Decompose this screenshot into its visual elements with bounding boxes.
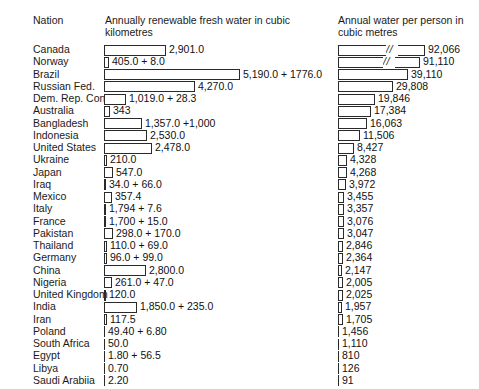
- renewable-water-value: 1,850.0 + 235.0: [140, 300, 213, 312]
- nation-label: Egypt: [33, 349, 60, 361]
- renewable-water-value: 261.0 + 47.0: [115, 276, 174, 288]
- water-per-person-bar: [338, 143, 354, 154]
- renewable-water-bar: [104, 216, 106, 227]
- nation-label: Poland: [33, 325, 66, 337]
- renewable-water-bar: [104, 155, 107, 166]
- nation-label: Bangladesh: [33, 117, 88, 129]
- water-per-person-value: 1,705: [346, 313, 372, 325]
- water-resources-chart: Nation Annually renewable fresh water in…: [0, 0, 479, 389]
- renewable-water-bar: [104, 277, 112, 288]
- water-per-person-bar: [338, 326, 339, 337]
- renewable-water-bar: [104, 45, 166, 56]
- chart-row: Iran117.51,705: [0, 314, 479, 326]
- water-per-person-bar: [338, 216, 344, 227]
- water-per-person-value: 39,110: [411, 68, 442, 80]
- water-per-person-value: 3,455: [347, 190, 373, 202]
- renewable-water-value: 0.70: [108, 362, 128, 374]
- water-per-person-value: 1,110: [342, 337, 368, 349]
- renewable-water-value: 5,190.0 + 1776.0: [243, 68, 322, 80]
- renewable-water-bar: [104, 81, 195, 92]
- water-per-person-bar: [338, 130, 360, 141]
- renewable-water-bar: [104, 302, 137, 313]
- renewable-water-value: 2,478.0: [155, 141, 190, 153]
- nation-label: Australia: [33, 104, 74, 116]
- renewable-water-value: 50.0: [108, 337, 128, 349]
- water-per-person-value: 2,025: [346, 288, 372, 300]
- nation-label: Saudi Arabiia: [33, 374, 95, 386]
- water-per-person-bar: [338, 253, 343, 264]
- nation-label: Nigeria: [33, 276, 66, 288]
- water-per-person-value: 1,456: [342, 325, 368, 337]
- water-per-person-bar: [338, 204, 344, 215]
- chart-row: India1,850.0 + 235.01,957: [0, 301, 479, 313]
- renewable-water-value: 96.0 + 99.0: [110, 251, 163, 263]
- nation-label: Thailand: [33, 239, 73, 251]
- chart-row: Italy1,794 + 7.63,357: [0, 203, 479, 215]
- chart-row: Mexico357.43,455: [0, 191, 479, 203]
- chart-row: Norway405.0 + 8.0//91,110: [0, 56, 479, 68]
- nation-label: Japan: [33, 166, 62, 178]
- chart-row: China2,800.02,147: [0, 265, 479, 277]
- water-per-person-value: 11,506: [363, 129, 394, 141]
- water-per-person-value: 17,384: [374, 104, 406, 116]
- water-per-person-bar: [338, 302, 342, 313]
- chart-rows: Canada2,901.0//92,066Norway405.0 + 8.0//…: [0, 44, 479, 387]
- column-header-renewable-water: Annually renewable fresh water in cubic …: [105, 14, 330, 38]
- water-per-person-bar: [338, 167, 347, 178]
- water-per-person-value: 810: [342, 349, 360, 361]
- chart-row: Germany96.0 + 99.02,364: [0, 252, 479, 264]
- chart-row: Canada2,901.0//92,066: [0, 44, 479, 56]
- nation-label: Ukraine: [33, 153, 69, 165]
- renewable-water-value: 343: [113, 104, 131, 116]
- water-per-person-value: 3,076: [347, 215, 373, 227]
- water-per-person-bar: [338, 363, 339, 374]
- renewable-water-bar: [104, 94, 126, 105]
- water-per-person-bar: [338, 192, 344, 203]
- water-per-person-bar: [338, 69, 408, 80]
- nation-label: Mexico: [33, 190, 66, 202]
- nation-label: United Kingdom: [33, 288, 108, 300]
- water-per-person-value: 16,063: [370, 117, 402, 129]
- renewable-water-value: 34.0 + 66.0: [109, 178, 162, 190]
- renewable-water-value: 1,700 + 15.0: [109, 215, 168, 227]
- nation-label: Germany: [33, 251, 76, 263]
- nation-label: Italy: [33, 202, 52, 214]
- water-per-person-value: 19,846: [378, 92, 410, 104]
- water-per-person-value: 1,957: [345, 300, 371, 312]
- chart-row: Iraq34.0 + 66.03,972: [0, 179, 479, 191]
- renewable-water-value: 2,530.0: [150, 129, 185, 141]
- water-per-person-bar: [338, 277, 343, 288]
- chart-row: United Kingdom120.02,025: [0, 289, 479, 301]
- nation-label: Pakistan: [33, 227, 73, 239]
- renewable-water-bar: [104, 118, 142, 129]
- column-headers: Nation Annually renewable fresh water in…: [0, 14, 479, 40]
- renewable-water-value: 2.20: [108, 374, 128, 386]
- renewable-water-value: 210.0: [110, 153, 136, 165]
- column-header-nation: Nation: [33, 14, 63, 26]
- water-per-person-value: 4,328: [350, 153, 376, 165]
- nation-label: Iraq: [33, 178, 51, 190]
- water-per-person-bar: [338, 81, 393, 92]
- nation-label: China: [33, 264, 60, 276]
- water-per-person-bar: [338, 106, 371, 117]
- renewable-water-bar: [104, 69, 240, 80]
- water-per-person-value: 3,357: [347, 202, 373, 214]
- renewable-water-bar: [104, 339, 105, 350]
- water-per-person-bar: [338, 118, 367, 129]
- water-per-person-bar: [338, 351, 339, 362]
- renewable-water-bar: [104, 143, 152, 154]
- nation-label: Norway: [33, 55, 69, 67]
- nation-label: Russian Fed.: [33, 80, 95, 92]
- water-per-person-value: 2,147: [345, 264, 371, 276]
- nation-label: France: [33, 215, 66, 227]
- axis-break-icon: //: [386, 45, 398, 56]
- renewable-water-value: 4,270.0: [198, 80, 233, 92]
- axis-break-glyph: //: [386, 45, 393, 56]
- water-per-person-bar: [338, 94, 375, 105]
- renewable-water-value: 120.0: [109, 288, 135, 300]
- renewable-water-bar: [104, 192, 112, 203]
- water-per-person-bar: [338, 241, 343, 252]
- chart-row: United States2,478.08,427: [0, 142, 479, 154]
- nation-label: Canada: [33, 43, 70, 55]
- nation-label: South Africa: [33, 337, 90, 349]
